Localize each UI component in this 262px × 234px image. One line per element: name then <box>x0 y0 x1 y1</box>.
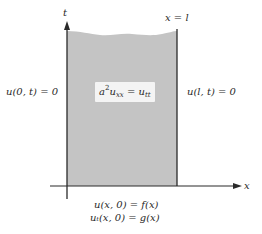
left-boundary-condition: u(0, t) = 0 <box>6 87 58 97</box>
eq-rhs-sub: tt <box>145 91 151 99</box>
right-boundary-condition: u(l, t) = 0 <box>187 87 236 97</box>
x-axis-arrow-icon <box>233 183 242 189</box>
initial-condition-position: u(x, 0) = f(x) <box>94 200 158 210</box>
wave-equation-label: a2uxx = utt <box>95 82 155 102</box>
t-axis-label: t <box>63 8 67 18</box>
eq-equals: = <box>124 86 139 97</box>
eq-lhs-sub: xx <box>116 91 124 99</box>
initial-condition-velocity: uₜ(x, 0) = g(x) <box>90 213 160 223</box>
t-axis-arrow-icon <box>64 21 70 30</box>
x-axis-label: x <box>244 181 250 191</box>
right-boundary-label: x = l <box>165 13 189 23</box>
shaded-domain-region <box>67 31 177 186</box>
